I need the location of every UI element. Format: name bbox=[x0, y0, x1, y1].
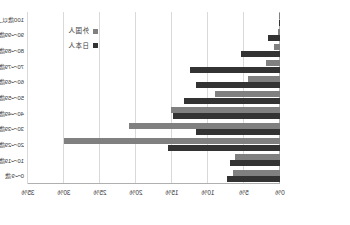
bar-group bbox=[28, 137, 280, 153]
bar-japanese bbox=[168, 145, 280, 151]
legend-entry[interactable]: 外国人 bbox=[8, 28, 98, 35]
bar-japanese bbox=[241, 51, 280, 57]
population-age-bar-chart: 100歳以上90～99歳80～89歳70～79歳60～69歳50～59歳40～4… bbox=[0, 0, 350, 225]
category-label: 60～69歳 bbox=[0, 79, 24, 85]
bar-foreign bbox=[64, 138, 280, 144]
bar-foreign bbox=[266, 60, 280, 66]
bar-japanese bbox=[173, 113, 280, 119]
bar-foreign bbox=[215, 91, 280, 97]
bar-group bbox=[28, 75, 280, 91]
bar-foreign bbox=[278, 29, 280, 35]
tick-label: 30% bbox=[57, 190, 70, 197]
legend-label: 外国人 bbox=[68, 28, 89, 35]
legend-entry[interactable]: 日本人 bbox=[8, 43, 98, 50]
tick-label: 5% bbox=[239, 190, 248, 197]
bar-group bbox=[28, 153, 280, 169]
chart-legend: 外国人日本人 bbox=[8, 28, 98, 57]
category-label: 10～19歳 bbox=[0, 158, 24, 164]
bar-japanese bbox=[230, 160, 280, 166]
bar-group bbox=[28, 121, 280, 137]
category-label: 40～49歳 bbox=[0, 111, 24, 117]
bar-japanese bbox=[190, 67, 280, 73]
bar-japanese bbox=[196, 129, 280, 135]
bar-japanese bbox=[184, 98, 280, 104]
legend-label: 日本人 bbox=[68, 43, 89, 50]
tick-label: 10% bbox=[201, 190, 214, 197]
bar-group bbox=[28, 90, 280, 106]
tick-label: 20% bbox=[129, 190, 142, 197]
category-label: 70～79歳 bbox=[0, 64, 24, 70]
category-label: 30～39歳 bbox=[0, 126, 24, 132]
bar-group bbox=[28, 59, 280, 75]
legend-swatch-icon bbox=[93, 29, 98, 34]
bar-group bbox=[28, 168, 280, 184]
tick-label: 15% bbox=[165, 190, 178, 197]
tick-label: 35% bbox=[21, 190, 34, 197]
bar-group bbox=[28, 106, 280, 122]
bar-foreign bbox=[274, 44, 280, 50]
bar-japanese bbox=[196, 82, 280, 88]
bar-japanese bbox=[227, 176, 280, 182]
category-label: 20～29歳 bbox=[0, 142, 24, 148]
tick-label: 0% bbox=[275, 190, 284, 197]
category-label: 0～9歳 bbox=[0, 173, 24, 179]
bar-foreign bbox=[233, 170, 280, 176]
legend-swatch-icon bbox=[93, 43, 98, 48]
bar-foreign bbox=[129, 123, 280, 129]
category-label: 50～59歳 bbox=[0, 95, 24, 101]
bar-foreign bbox=[248, 76, 280, 82]
bar-foreign bbox=[235, 154, 280, 160]
axis-baseline bbox=[28, 183, 280, 184]
bar-group bbox=[28, 12, 280, 28]
bar-foreign bbox=[171, 107, 280, 113]
bar-japanese bbox=[268, 35, 280, 41]
category-label: 100歳以上 bbox=[0, 17, 24, 23]
tick-label: 25% bbox=[93, 190, 106, 197]
